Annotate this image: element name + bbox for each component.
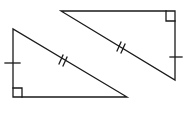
congruence-diagram <box>0 0 191 118</box>
left-right-angle-marker <box>13 88 22 97</box>
right-triangle <box>61 11 182 80</box>
right-triangle-outline <box>61 11 175 80</box>
right-right-angle-marker <box>166 11 175 21</box>
left-triangle-outline <box>13 29 127 97</box>
